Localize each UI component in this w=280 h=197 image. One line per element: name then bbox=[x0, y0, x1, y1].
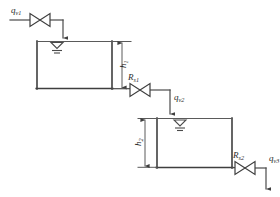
inlet-valve[interactable] bbox=[30, 14, 50, 27]
liquid-level-symbol-tank-2 bbox=[174, 120, 186, 131]
liquid-level-symbol-tank-1 bbox=[51, 43, 63, 54]
flow-2-label: qv2 bbox=[174, 92, 184, 103]
upper-tank bbox=[36, 41, 113, 89]
height-2-label: h2 bbox=[133, 138, 144, 146]
resistance-2-label: Rs2 bbox=[232, 150, 244, 161]
bowtie-valve-icon bbox=[235, 162, 245, 175]
schematic-canvas: h1 h2 qv1 qv2 qv bbox=[0, 0, 280, 197]
resistance-valve-1[interactable] bbox=[130, 84, 150, 97]
bowtie-valve-icon bbox=[130, 84, 140, 97]
tank1-outlet-pipe-group bbox=[112, 89, 170, 114]
bowtie-valve-icon bbox=[30, 14, 40, 27]
resistance-valve-2[interactable] bbox=[235, 162, 255, 175]
inflow-1-label: qv1 bbox=[11, 5, 21, 16]
bowtie-valve-icon bbox=[140, 84, 150, 97]
flow-3-label: qv3 bbox=[269, 153, 279, 164]
height-1-label: h1 bbox=[118, 60, 129, 68]
lower-tank bbox=[156, 118, 233, 168]
resistance-1-label: Rs1 bbox=[127, 72, 139, 83]
bowtie-valve-icon bbox=[40, 14, 50, 27]
bowtie-valve-icon bbox=[245, 162, 255, 175]
schematic-diagram: h1 h2 qv1 qv2 qv bbox=[0, 0, 280, 197]
